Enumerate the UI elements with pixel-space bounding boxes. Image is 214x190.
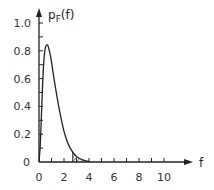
x-axis xyxy=(39,159,193,165)
x-tick-labels: 0246810 xyxy=(36,171,172,184)
x-tick-label: 6 xyxy=(111,171,118,184)
y-tick-labels: 00.20.40.60.81.0 xyxy=(14,17,32,169)
x-tick-label: 4 xyxy=(86,171,93,184)
density-curve xyxy=(39,45,89,162)
x-axis-arrow-icon xyxy=(184,159,193,165)
x-tick-label: 8 xyxy=(136,171,143,184)
y-axis-arrow-icon xyxy=(36,8,42,17)
y-tick-label: 0.4 xyxy=(14,100,32,113)
y-axis-title: pF(f) xyxy=(48,8,74,24)
x-tick-label: 2 xyxy=(61,171,68,184)
x-axis-title: f xyxy=(199,156,204,170)
y-tick-label: 0.6 xyxy=(14,73,32,86)
chart: 0246810 00.20.40.60.81.0 f pF(f) xyxy=(0,0,214,190)
x-tick-label: 0 xyxy=(36,171,43,184)
y-tick-label: 0 xyxy=(23,156,30,169)
y-tick-label: 0.8 xyxy=(14,45,32,58)
y-tick-label: 0.2 xyxy=(14,128,32,141)
x-tick-label: 10 xyxy=(157,171,171,184)
y-tick-label: 1.0 xyxy=(14,17,32,30)
